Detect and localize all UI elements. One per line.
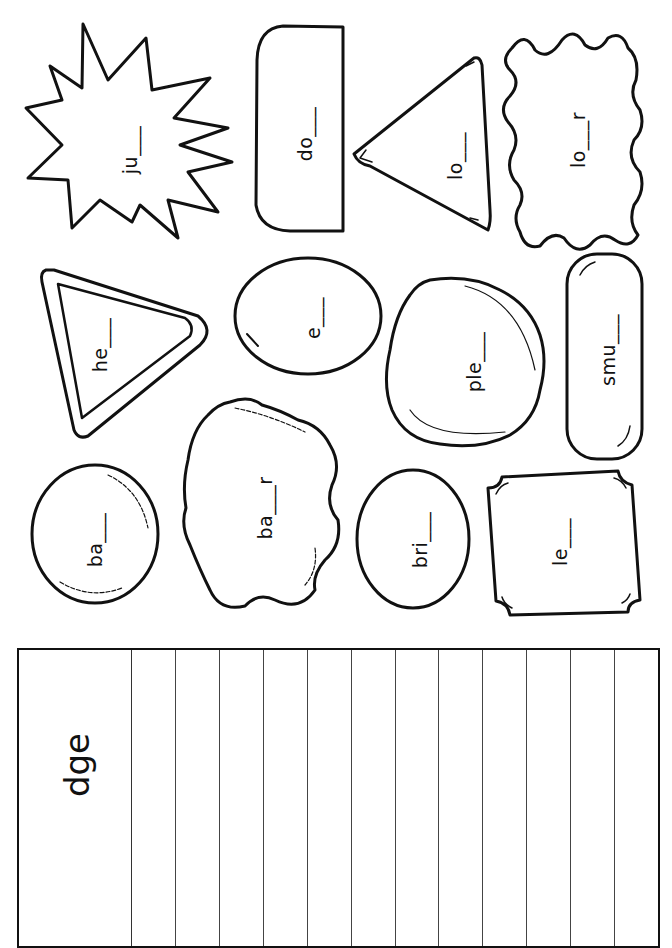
answer-column[interactable]	[527, 650, 571, 946]
word-stem-lo-r: lo___r	[569, 112, 588, 168]
answer-column[interactable]	[483, 650, 527, 946]
answer-column[interactable]	[615, 650, 658, 946]
rounded-triangle-inner	[58, 284, 192, 418]
word-stem-e: e___	[304, 297, 323, 339]
word-stem-ju: ju___	[121, 126, 140, 174]
triangle-shape	[354, 58, 490, 230]
table-header-column: dge	[19, 650, 132, 946]
answer-column[interactable]	[439, 650, 483, 946]
answer-column[interactable]	[176, 650, 220, 946]
word-stem-le: le___	[551, 518, 570, 566]
answer-column[interactable]	[396, 650, 440, 946]
word-stem-smu: smu___	[599, 314, 618, 386]
word-stem-ba: ba___	[86, 513, 105, 568]
rounded-triangle-shape	[42, 270, 208, 437]
table-header-label: dge	[57, 733, 97, 797]
word-stem-lo: lo___	[446, 132, 465, 180]
answer-table: dge	[17, 648, 660, 948]
answer-column[interactable]	[308, 650, 352, 946]
word-stem-he: he___	[91, 318, 110, 373]
word-stem-do: do___	[296, 107, 315, 162]
answer-column[interactable]	[132, 650, 176, 946]
word-stem-ba-r: ba___r	[256, 476, 275, 539]
answer-column[interactable]	[352, 650, 396, 946]
ellipse-highlight	[247, 334, 258, 346]
word-stem-bri: bri___	[411, 512, 430, 569]
answer-column[interactable]	[571, 650, 615, 946]
answer-column[interactable]	[264, 650, 308, 946]
word-stem-ple: ple___	[465, 332, 484, 393]
answer-column[interactable]	[220, 650, 264, 946]
